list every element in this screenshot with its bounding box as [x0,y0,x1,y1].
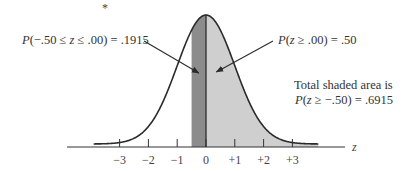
x-tick-label: −3 [113,153,126,167]
z-axis-label: z [351,140,357,154]
x-tick-label: +2 [257,153,270,167]
stray-mark: * [102,1,108,15]
x-tick-label: +1 [228,153,241,167]
annotation-left: P(−.50 ≤ z ≤ .00) = .1915 [21,33,149,47]
normal-curve-chart: −3−2−10+1+2+3 z * P(−.50 ≤ z ≤ .00) = .1… [0,0,405,171]
arrow-left [144,41,199,73]
shaded-region-dark [192,15,206,147]
x-tick-label: +3 [286,153,299,167]
x-tick-label: 0 [203,153,209,167]
x-tick-label: −2 [142,153,155,167]
x-tick-label: −1 [171,153,184,167]
annotation-right: P(z ≥ .00) = .50 [277,33,357,47]
annotation-total-line2: P(z ≥ −.50) = .6915 [294,93,393,107]
annotation-total-line1: Total shaded area is [294,78,393,92]
